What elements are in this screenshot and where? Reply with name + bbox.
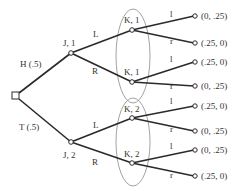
payoff-label: (.25, 0) <box>201 57 227 67</box>
terminal-node <box>193 14 197 18</box>
terminal-node <box>193 84 197 88</box>
edge-K1b-r <box>132 82 194 86</box>
action-label-L-bottom: L <box>93 120 99 130</box>
terminal-node <box>193 129 197 133</box>
node-J2 <box>69 140 74 145</box>
terminal-node <box>193 41 197 45</box>
payoff-label: (.25, 0) <box>201 38 227 48</box>
chance-label-T: T (.5) <box>19 122 39 132</box>
payoff-label: (.25, 0) <box>201 171 227 181</box>
action-label-l: l <box>170 9 173 19</box>
action-label-r: r <box>170 36 173 46</box>
edge-K1b-l <box>132 62 194 82</box>
edge-K2b-l <box>132 150 194 163</box>
action-label-l: l <box>170 54 173 64</box>
action-label-r: r <box>170 81 173 91</box>
edge-J1-R <box>71 53 132 82</box>
edge-J1-L <box>71 30 132 53</box>
payoff-label: (0, .25) <box>201 11 227 21</box>
player-label-K2-bottom: K, 2 <box>124 149 140 159</box>
terminal-node <box>193 60 197 64</box>
edge-K1a-l <box>132 16 194 30</box>
payoff-label: (0, .25) <box>201 145 227 155</box>
node-J1 <box>69 51 74 56</box>
node-K1-top <box>130 28 135 33</box>
terminal-node <box>193 148 197 152</box>
action-label-l: l <box>170 141 173 151</box>
root-chance-node <box>12 92 19 99</box>
terminal-node <box>193 174 197 178</box>
edge-K1a-r <box>132 30 194 43</box>
edge-K2a-l <box>132 106 194 118</box>
game-tree-diagram: H (.5) T (.5) J, 1 J, 2 L R L R K, 1 K, … <box>0 0 240 191</box>
edge-K2b-r <box>132 163 194 176</box>
edge-J2-L <box>71 118 132 142</box>
player-label-K2-top: K, 2 <box>124 104 140 114</box>
terminal-node <box>193 104 197 108</box>
player-label-K1-bottom: K, 1 <box>124 67 140 77</box>
edge-T <box>19 99 71 142</box>
player-label-J1: J, 1 <box>63 38 76 48</box>
node-K1-bottom <box>130 80 135 85</box>
action-label-L-top: L <box>93 29 99 39</box>
edge-K2a-r <box>132 118 194 131</box>
player-label-K1-top: K, 1 <box>124 15 140 25</box>
action-label-l: l <box>170 96 173 106</box>
player-label-J2: J, 2 <box>63 150 76 160</box>
node-K2-top <box>130 116 135 121</box>
action-label-R-top: R <box>92 66 98 76</box>
payoff-label: (.25, 0) <box>201 101 227 111</box>
payoff-label: (0, .25) <box>201 126 227 136</box>
action-label-R-bottom: R <box>92 157 98 167</box>
node-K2-bottom <box>130 161 135 166</box>
payoff-label: (0, .25) <box>201 81 227 91</box>
edge-J2-R <box>71 142 132 163</box>
action-label-r: r <box>170 124 173 134</box>
chance-label-H: H (.5) <box>20 59 42 69</box>
action-label-r: r <box>170 170 173 180</box>
